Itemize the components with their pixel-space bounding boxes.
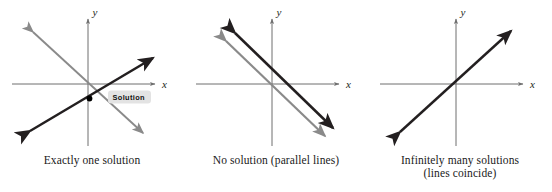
caption-line: (lines coincide) bbox=[368, 167, 552, 180]
panel-one-solution-graph: Solution x y bbox=[0, 0, 184, 155]
line-dark-parallel bbox=[235, 33, 333, 128]
solution-point-marker bbox=[87, 96, 93, 102]
y-axis-label: y bbox=[92, 6, 98, 18]
panel-no-solution-caption: No solution (parallel lines) bbox=[184, 154, 368, 167]
axes-group bbox=[12, 19, 155, 146]
y-axis-label: y bbox=[276, 6, 282, 18]
y-axis-label: y bbox=[460, 6, 466, 18]
panel-no-solution-graph: x y bbox=[184, 0, 368, 155]
caption-line: No solution (parallel lines) bbox=[184, 154, 368, 167]
panel-infinitely-many-graph: x y bbox=[368, 0, 552, 155]
line-gray-parallel bbox=[226, 41, 325, 136]
solution-tag-label: Solution bbox=[113, 93, 145, 102]
panel-no-solution: x y No solution (parallel lines) bbox=[184, 0, 368, 192]
caption-line: Exactly one solution bbox=[0, 154, 184, 167]
x-axis-label: x bbox=[345, 78, 351, 90]
caption-line: Infinitely many solutions bbox=[368, 154, 552, 167]
axes-group bbox=[196, 19, 339, 146]
x-axis-label: x bbox=[161, 78, 167, 90]
x-axis-label: x bbox=[529, 78, 535, 90]
panel-one-solution-caption: Exactly one solution bbox=[0, 154, 184, 167]
panel-one-solution: Solution x y Exactly one solution bbox=[0, 0, 184, 192]
solution-annotation: Solution bbox=[108, 91, 151, 104]
panel-infinitely-many-caption: Infinitely many solutions (lines coincid… bbox=[368, 154, 552, 180]
systems-of-equations-figure: Solution x y Exactly one solution bbox=[0, 0, 552, 192]
panel-infinitely-many: x y Infinitely many solutions (lines coi… bbox=[368, 0, 552, 192]
